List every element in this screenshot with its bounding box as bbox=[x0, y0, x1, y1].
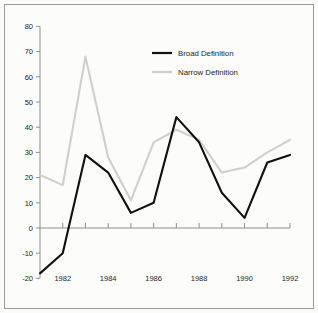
y-axis-tick-label: 60 bbox=[25, 73, 33, 82]
chart-legend: Broad DefinitionNarrow Definition bbox=[152, 49, 238, 77]
y-axis-tick-label: 40 bbox=[25, 123, 33, 132]
y-axis-tick-label: 30 bbox=[25, 148, 33, 157]
x-axis-tick-label: 1984 bbox=[100, 274, 117, 283]
y-axis: -20-1001020304050607080 bbox=[22, 22, 40, 283]
x-axis-tick-label: 1986 bbox=[145, 274, 162, 283]
y-axis-tick-label: 50 bbox=[25, 98, 33, 107]
chart-container: -20-1001020304050607080 1982198419861988… bbox=[0, 0, 318, 313]
y-axis-tick-label: 80 bbox=[25, 22, 33, 31]
data-series-group bbox=[40, 57, 290, 274]
x-axis: 198219841986198819901992 bbox=[40, 223, 298, 283]
x-axis-tick-label: 1988 bbox=[191, 274, 208, 283]
legend-label: Broad Definition bbox=[178, 49, 233, 58]
x-axis-tick-label: 1982 bbox=[54, 274, 71, 283]
y-axis-tick-label: 70 bbox=[25, 47, 33, 56]
series-line-broad bbox=[40, 117, 290, 273]
series-line-narrow bbox=[40, 57, 290, 201]
y-axis-tick-label: 10 bbox=[25, 199, 33, 208]
line-chart-plot: -20-1001020304050607080 1982198419861988… bbox=[0, 0, 318, 313]
x-axis-tick-label: 1992 bbox=[282, 274, 299, 283]
y-axis-tick-label: -10 bbox=[22, 249, 33, 258]
x-axis-tick-label: 1990 bbox=[236, 274, 253, 283]
y-axis-tick-label: 20 bbox=[25, 173, 33, 182]
legend-label: Narrow Definition bbox=[178, 68, 238, 77]
y-axis-tick-label: 0 bbox=[29, 224, 33, 233]
y-axis-tick-label: -20 bbox=[22, 274, 33, 283]
